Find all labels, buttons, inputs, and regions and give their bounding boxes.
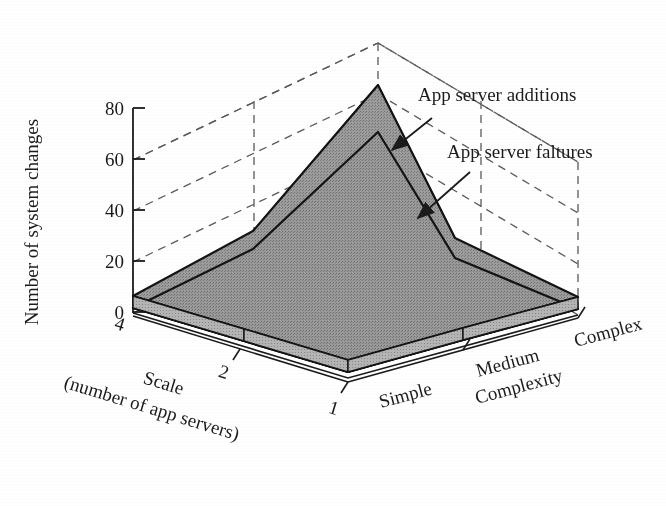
annotation-faltures-label: App server faltures: [447, 141, 593, 162]
surface-chart: 80 60 40 20 0 Number of system changes: [0, 0, 666, 506]
annotation-app-server-faltures: App server faltures: [418, 141, 593, 218]
z-axis: [133, 108, 145, 313]
z-tick-40: 40: [105, 200, 124, 221]
scale-tick-2: 2: [216, 360, 231, 383]
z-tick-20: 20: [105, 251, 124, 272]
figure-canvas: 80 60 40 20 0 Number of system changes: [0, 0, 666, 506]
complexity-tick-complex: Complex: [572, 312, 645, 350]
scale-tick-1: 1: [326, 396, 341, 419]
z-tick-80: 80: [105, 98, 124, 119]
scale-axis-label: Scale: [141, 367, 186, 399]
annotation-additions-label: App server additions: [418, 84, 576, 105]
z-axis-label: Number of system changes: [21, 119, 42, 325]
complexity-tick-simple: Simple: [377, 378, 434, 412]
z-axis-tick-labels: 80 60 40 20 0: [105, 98, 124, 323]
z-tick-60: 60: [105, 149, 124, 170]
